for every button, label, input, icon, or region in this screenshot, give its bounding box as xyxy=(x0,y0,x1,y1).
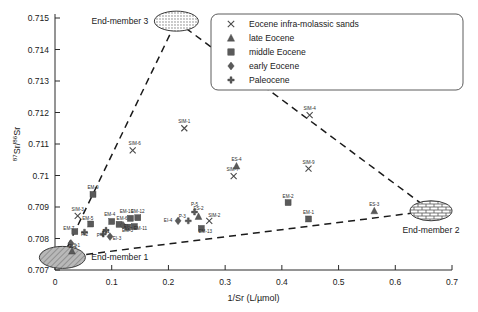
marker-x xyxy=(206,218,212,224)
svg-text:87Sr/86Sr: 87Sr/86Sr xyxy=(11,127,22,161)
legend-label: Eocene infra-molassic sands xyxy=(249,19,359,29)
marker-x xyxy=(231,173,237,179)
point-label: EI-4 xyxy=(164,218,173,223)
point-label: SIM-1 xyxy=(178,119,191,124)
end-member-label: End-member 2 xyxy=(403,225,460,235)
y-tick-label: 0.708 xyxy=(28,234,50,244)
x-tick-label: 0 xyxy=(53,277,58,287)
marker-x xyxy=(181,125,187,131)
marker-square xyxy=(135,215,141,221)
y-tick-label: 0.714 xyxy=(28,45,50,55)
y-axis-title: 87Sr/86Sr xyxy=(11,127,22,161)
point-label: P-3 xyxy=(179,214,187,219)
point-label: EM-10 xyxy=(120,209,134,214)
point-label: EM-9 xyxy=(88,185,99,190)
y-tick-label: 0.712 xyxy=(28,108,50,118)
y-tick-label: 0.709 xyxy=(28,202,50,212)
point-label: SIM-2 xyxy=(208,213,221,218)
x-tick-label: 0.2 xyxy=(163,277,175,287)
point-label: SIM-9 xyxy=(302,160,315,165)
point-label: EM-4 xyxy=(104,212,115,217)
legend-label: Paleocene xyxy=(249,75,290,85)
point-label: EM-6 xyxy=(117,216,128,221)
point-label: EI-1 xyxy=(124,224,133,229)
x-tick-label: 0.6 xyxy=(389,277,401,287)
point-label: SIM-3 xyxy=(72,207,85,212)
end-member-ellipse xyxy=(39,246,85,268)
x-tick-label: 0.3 xyxy=(219,277,231,287)
marker-plus xyxy=(185,218,191,224)
point-label: EM-11 xyxy=(134,226,148,231)
marker-square xyxy=(228,49,234,55)
point-label: P-5 xyxy=(191,202,199,207)
point-label: EI-2 xyxy=(69,244,78,249)
point-label: SIM-6 xyxy=(129,141,142,146)
series-square: EM-9EM-2EM-1EM-12EM-10EM-4EM-5EM-6EM-7EM… xyxy=(63,185,314,234)
legend: Eocene infra-molassic sandslate Eocenemi… xyxy=(211,14,463,90)
marker-x xyxy=(307,112,313,118)
point-label: ES-3 xyxy=(369,202,380,207)
legend-label: middle Eocene xyxy=(249,47,306,57)
point-label: EM-1 xyxy=(303,210,314,215)
end-member-label: End-member 1 xyxy=(91,252,148,262)
marker-square xyxy=(306,216,312,222)
point-label: EM-13 xyxy=(199,229,213,234)
point-label: P-2 xyxy=(81,232,89,237)
y-tick-label: 0.711 xyxy=(28,139,49,149)
y-tick-label: 0.715 xyxy=(28,13,50,23)
sr-isotope-mixing-chart: 0.7070.7080.7090.710.7110.7120.7130.7140… xyxy=(0,0,478,312)
x-tick-label: 0.7 xyxy=(446,277,458,287)
point-label: SIM-4 xyxy=(304,106,317,111)
end-member-label: End-member 3 xyxy=(92,16,149,26)
marker-triangle xyxy=(195,213,202,220)
marker-square xyxy=(88,221,94,227)
marker-square xyxy=(127,215,133,221)
point-label: EI-3 xyxy=(113,236,122,241)
point-label: ES-4 xyxy=(231,157,242,162)
end-member-ellipse xyxy=(410,201,452,221)
legend-label: early Eocene xyxy=(249,61,299,71)
marker-x xyxy=(75,213,81,219)
marker-square xyxy=(109,218,115,224)
x-tick-label: 0.5 xyxy=(333,277,345,287)
x-tick-label: 0.1 xyxy=(106,277,118,287)
point-label: EM-2 xyxy=(283,194,294,199)
y-tick-label: 0.713 xyxy=(28,76,50,86)
marker-x xyxy=(130,147,136,153)
point-label: P-1 xyxy=(102,229,110,234)
marker-square xyxy=(285,200,291,206)
data-points: SIM-1SIM-6SIM-4SIM-9SIM-7SIM-3SIM-2ES-4E… xyxy=(63,106,379,254)
marker-x xyxy=(306,166,312,172)
marker-triangle xyxy=(233,162,240,169)
legend-label: late Eocene xyxy=(249,33,295,43)
marker-triangle xyxy=(371,207,378,214)
x-axis-title: 1/Sr (L/µmol) xyxy=(227,293,279,303)
point-label: EM-5 xyxy=(82,216,93,221)
y-tick-label: 0.707 xyxy=(28,265,50,275)
end-member-ellipse xyxy=(154,11,198,31)
y-tick-label: 0.71 xyxy=(32,171,49,181)
marker-square xyxy=(90,191,96,197)
chart-canvas: 0.7070.7080.7090.710.7110.7120.7130.7140… xyxy=(0,0,478,312)
x-tick-label: 0.4 xyxy=(276,277,288,287)
point-label: EM-7 xyxy=(63,226,74,231)
